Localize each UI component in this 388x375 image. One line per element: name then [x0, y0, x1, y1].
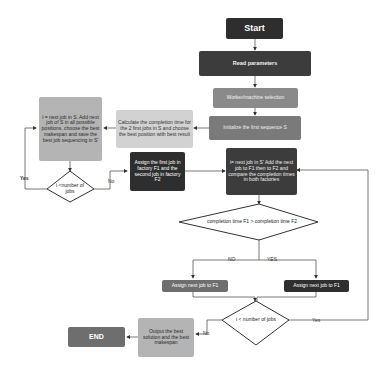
decision-compare-label: completion time F1 > completion time F2 — [190, 216, 314, 228]
edge-compare-no — [193, 237, 259, 278]
label-left-no: No — [108, 178, 114, 184]
calculate-completion-node: Calculate the completion time for the 2 … — [116, 110, 193, 148]
label-compare-no: NO — [228, 256, 236, 262]
edge-compare-yes — [259, 260, 316, 278]
initialize-sequence-node: Initialize the first sequence S — [209, 116, 301, 140]
edge-merge-left — [193, 292, 255, 301]
assign-first-node: Assign the first job in factory F1 and t… — [130, 152, 185, 191]
assign-next-f1-yes-node: Assign next job to F1 — [284, 280, 349, 292]
label-bottom-no: No — [203, 330, 209, 336]
label-compare-yes: YES — [267, 256, 277, 262]
assign-next-f1-no-node: Assign next job to F1 — [162, 280, 228, 292]
label-bottom-yes: Yes — [312, 317, 320, 323]
insert-job-node: i = next job in S. Add next job of S in … — [39, 97, 102, 161]
end-node: END — [68, 327, 125, 347]
label-left-yes: Yes — [20, 175, 29, 181]
read-parameters-node: Read parameters — [199, 51, 311, 76]
start-node: Start — [226, 18, 283, 39]
worker-selection-node: Worker/machine selection — [213, 88, 298, 108]
decision-left-label: i <number of jobs — [52, 180, 88, 198]
decision-bottom-label: i < number of jobs — [228, 314, 284, 326]
output-node: Output the best solution and the best ma… — [138, 318, 194, 357]
edge-bottom-yes — [287, 170, 368, 320]
next-job-compare-node: i= next job in S' Add the next job to F1… — [226, 148, 297, 195]
edge-merge-right — [257, 292, 316, 301]
